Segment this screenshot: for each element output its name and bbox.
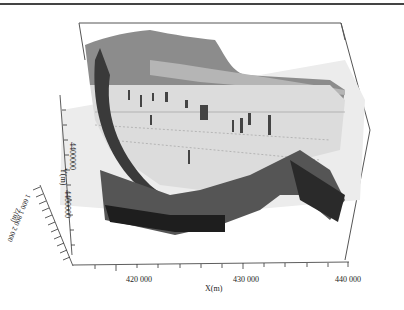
- x-tick-440000: 440 000: [335, 275, 361, 284]
- x-axis: [73, 262, 349, 271]
- x-tick-430000: 430 000: [233, 275, 259, 284]
- x-tick-420000: 420 000: [126, 275, 152, 284]
- y-tick-lower: 4400000: [63, 190, 72, 218]
- y-axis-label: Y(m): [59, 168, 68, 185]
- y-tick-upper: 4400000: [68, 142, 77, 170]
- 3d-model-plot: [0, 0, 404, 310]
- x-axis-label: X(m): [205, 284, 222, 293]
